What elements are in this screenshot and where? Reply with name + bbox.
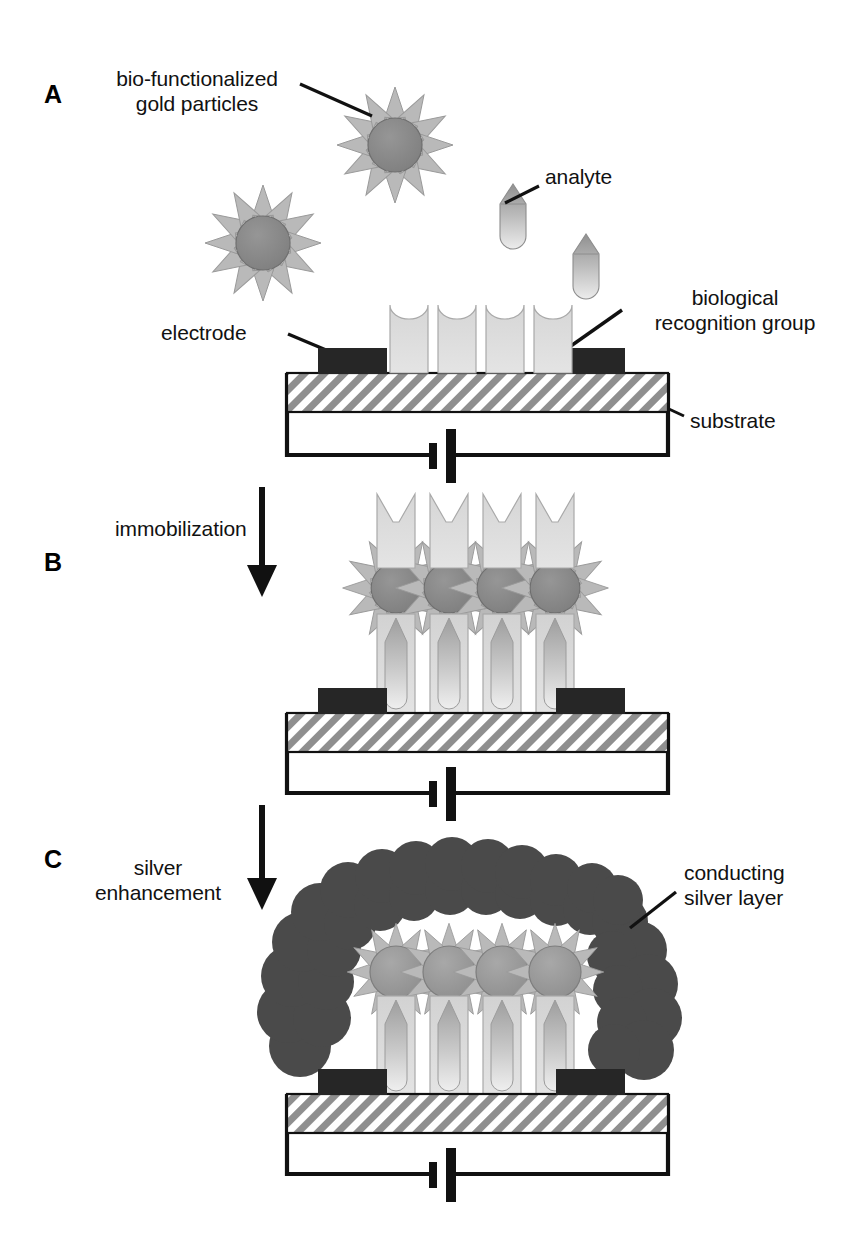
recognition-post-c-2 — [430, 996, 468, 1108]
substrate-a — [287, 373, 668, 412]
electrode-right-c — [556, 1069, 625, 1095]
electrode-left-a — [318, 348, 387, 374]
electrode-left-b — [318, 688, 387, 714]
panel-c — [257, 837, 682, 1202]
recognition-upper-b-1 — [377, 494, 415, 568]
recognition-upper-b-3 — [483, 494, 521, 568]
recognition-post-c-3 — [483, 996, 521, 1108]
battery-short-plate-b — [429, 781, 437, 807]
leader-recognition-group — [568, 310, 622, 348]
recognition-group-a-4 — [534, 305, 572, 373]
recognition-upper-b-4 — [536, 494, 574, 568]
arrow-silver-enhancement — [247, 805, 277, 910]
recognition-post-b-3 — [483, 614, 521, 726]
analyte-free-2 — [573, 234, 599, 299]
panel-a — [205, 84, 684, 483]
gold-particle-free-2 — [205, 185, 321, 301]
recognition-group-a-2 — [438, 305, 476, 373]
recognition-upper-b-2 — [430, 494, 468, 568]
recognition-post-b-2 — [430, 614, 468, 726]
battery-short-plate-a — [429, 443, 437, 469]
battery-long-plate-c — [446, 1148, 456, 1202]
leader-gold-particles — [300, 84, 372, 116]
electrode-right-b — [556, 688, 625, 714]
recognition-group-a-3 — [486, 305, 524, 373]
diagram-canvas — [0, 0, 852, 1254]
battery-long-plate-a — [446, 429, 456, 483]
battery-short-plate-c — [429, 1162, 437, 1188]
substrate-b — [287, 713, 668, 752]
substrate-c — [287, 1094, 668, 1133]
panel-b — [287, 494, 668, 821]
battery-long-plate-b — [446, 767, 456, 821]
recognition-group-a-1 — [390, 305, 428, 373]
electrode-left-c — [318, 1069, 387, 1095]
arrow-immobilization — [247, 487, 277, 597]
gold-particle-free-1 — [337, 87, 453, 203]
figure-root: A B C bio-functionalized gold particles … — [0, 0, 852, 1254]
